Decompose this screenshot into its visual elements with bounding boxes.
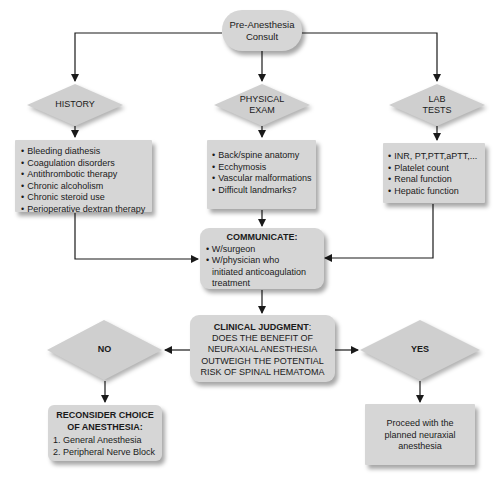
history-label: HISTORY xyxy=(55,99,95,111)
list-item: Vascular malformations xyxy=(212,173,311,185)
list-item: Platelet count xyxy=(388,163,480,175)
list-item: Bleeding diathesis xyxy=(21,146,146,158)
proceed-line: anesthesia xyxy=(369,441,471,453)
reconsider-title-line1: RECONSIDER CHOICE xyxy=(53,410,157,422)
list-item: Hepatic function xyxy=(388,186,480,198)
proceed-line: Proceed with the xyxy=(369,418,471,430)
proceed-neuraxial-box: Proceed with the planned neuraxial anest… xyxy=(365,404,475,465)
physical-exam-diamond: PHYSICAL EXAM xyxy=(214,84,310,126)
list-item: INR, PT,PTT,aPTT,... xyxy=(388,151,480,163)
lab-tests-details-box: INR, PT,PTT,aPTT,... Platelet count Rena… xyxy=(383,143,485,203)
list-item: Ecchymosis xyxy=(212,162,311,174)
reconsider-anesthesia-box: RECONSIDER CHOICE OF ANESTHESIA: 1. Gene… xyxy=(48,405,162,461)
lab-tests-diamond: LAB TESTS xyxy=(389,84,485,126)
lab-tests-label-line1: LAB xyxy=(428,94,445,104)
list-item: Back/spine anatomy xyxy=(212,150,311,162)
physical-exam-label-line2: EXAM xyxy=(249,105,275,115)
history-list: Bleeding diathesis Coagulation disorders… xyxy=(21,146,146,215)
communicate-item: • W/physician who xyxy=(206,255,318,267)
start-label-line1: Pre-Anesthesia xyxy=(230,19,295,31)
judgment-line: OUTWEIGH THE POTENTIAL xyxy=(194,356,331,367)
lab-tests-list: INR, PT,PTT,aPTT,... Platelet count Rena… xyxy=(388,151,480,197)
proceed-line: planned neuraxial xyxy=(369,430,471,442)
list-item: 2. Peripheral Nerve Block xyxy=(53,447,157,459)
list-item: 1. General Anesthesia xyxy=(53,435,157,447)
judgment-line: DOES THE BENEFIT OF xyxy=(194,333,331,344)
yes-decision-diamond: YES xyxy=(360,320,480,380)
communicate-item: • W/surgeon xyxy=(206,244,318,256)
communicate-item-text: W/physician who xyxy=(212,255,280,265)
history-diamond: HISTORY xyxy=(27,84,123,126)
judgment-title-text: CLINICAL JUDGMENT xyxy=(214,322,309,332)
history-details-box: Bleeding diathesis Coagulation disorders… xyxy=(15,140,152,212)
list-item: Perioperative dextran therapy xyxy=(21,204,146,216)
reconsider-title-line2: OF ANESTHESIA: xyxy=(53,422,157,434)
physical-exam-label-line1: PHYSICAL xyxy=(240,94,285,104)
communicate-box: COMMUNICATE: • W/surgeon • W/physician w… xyxy=(200,228,324,289)
lab-tests-label-line2: TESTS xyxy=(422,105,451,115)
clinical-judgment-title: CLINICAL JUDGMENT: xyxy=(194,322,331,333)
list-item: Chronic steroid use xyxy=(21,192,146,204)
start-label-line2: Consult xyxy=(246,31,278,43)
list-item: Coagulation disorders xyxy=(21,158,146,170)
physical-exam-label: PHYSICAL EXAM xyxy=(240,94,285,117)
physical-exam-details-box: Back/spine anatomy Ecchymosis Vascular m… xyxy=(207,140,316,209)
anesthesia-options-list: 1. General Anesthesia 2. Peripheral Nerv… xyxy=(53,435,157,458)
no-decision-diamond: NO xyxy=(47,320,162,380)
communicate-item-continued: treatment xyxy=(206,278,318,290)
pre-anesthesia-consult-node: Pre-Anesthesia Consult xyxy=(222,10,302,51)
list-item: Chronic alcoholism xyxy=(21,181,146,193)
judgment-line: NEURAXIAL ANESTHESIA xyxy=(194,344,331,355)
communicate-title: COMMUNICATE: xyxy=(206,232,318,244)
communicate-item-text: W/surgeon xyxy=(212,244,256,254)
list-item: Renal function xyxy=(388,174,480,186)
list-item: Antithrombotic therapy xyxy=(21,169,146,181)
communicate-item-continued: initiated anticoagulation xyxy=(206,267,318,279)
physical-exam-list: Back/spine anatomy Ecchymosis Vascular m… xyxy=(212,150,311,196)
judgment-colon: : xyxy=(309,322,312,332)
yes-label: YES xyxy=(411,344,429,356)
list-item: Difficult landmarks? xyxy=(212,185,311,197)
clinical-judgment-box: CLINICAL JUDGMENT: DOES THE BENEFIT OF N… xyxy=(190,315,335,382)
no-label: NO xyxy=(98,344,112,356)
judgment-line: RISK OF SPINAL HEMATOMA xyxy=(194,367,331,378)
lab-tests-label: LAB TESTS xyxy=(422,94,451,117)
